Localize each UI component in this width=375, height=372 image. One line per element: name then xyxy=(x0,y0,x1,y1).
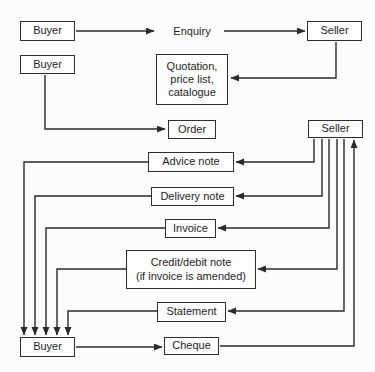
edge-buyer2-to-order xyxy=(45,75,165,129)
node-buyer-second: Buyer xyxy=(20,55,75,74)
node-seller-second: Seller xyxy=(308,120,363,138)
node-seller-second-label: Seller xyxy=(321,122,349,135)
node-seller-top-label: Seller xyxy=(320,24,348,37)
edge-credit-debit-note-to-buyer xyxy=(57,269,126,335)
edge-seller1-to-quotation xyxy=(231,42,336,78)
node-statement: Statement xyxy=(157,302,226,322)
node-quotation-price-list-catalogue: Quotation, price list, catalogue xyxy=(156,54,228,105)
credit-debit-line-1: Credit/debit note xyxy=(151,256,232,269)
enquiry-flow-label: Enquiry xyxy=(163,25,221,37)
node-buyer-bottom-label: Buyer xyxy=(33,340,62,353)
edge-cheque-to-seller2 xyxy=(220,140,354,346)
node-buyer-top: Buyer xyxy=(20,21,75,41)
node-invoice-label: Invoice xyxy=(173,222,208,235)
node-advice-note: Advice note xyxy=(148,152,234,172)
edge-statement-to-buyer xyxy=(68,311,157,335)
node-buyer-bottom: Buyer xyxy=(20,337,75,357)
node-order-label: Order xyxy=(178,123,206,136)
quotation-line-3: catalogue xyxy=(168,86,216,99)
node-credit-debit-note: Credit/debit note (if invoice is amended… xyxy=(126,250,256,289)
node-delivery-note: Delivery note xyxy=(151,187,234,206)
node-order: Order xyxy=(168,120,216,139)
node-buyer-second-label: Buyer xyxy=(33,58,62,71)
node-cheque-label: Cheque xyxy=(172,339,211,352)
node-cheque: Cheque xyxy=(164,337,219,355)
edge-seller2-to-credit-debit-note xyxy=(258,139,337,269)
edge-seller2-to-delivery-note xyxy=(236,139,322,196)
edge-advice-note-to-buyer xyxy=(24,162,148,335)
node-statement-label: Statement xyxy=(166,305,216,318)
edge-seller2-to-invoice xyxy=(218,139,329,228)
trade-documents-flow-diagram: Buyer Enquiry Seller Buyer Quotation, pr… xyxy=(0,0,375,372)
node-buyer-top-label: Buyer xyxy=(33,24,62,37)
node-advice-note-label: Advice note xyxy=(162,155,219,168)
quotation-line-1: Quotation, xyxy=(167,60,218,73)
credit-debit-line-2: (if invoice is amended) xyxy=(136,270,246,283)
node-invoice: Invoice xyxy=(165,219,216,238)
node-seller-top: Seller xyxy=(307,21,362,41)
edge-seller2-to-advice-note xyxy=(236,139,314,162)
node-delivery-note-label: Delivery note xyxy=(160,190,224,203)
quotation-line-2: price list, xyxy=(170,73,213,86)
